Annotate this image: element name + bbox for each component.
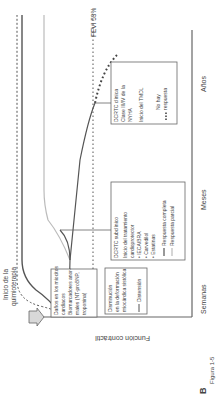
svg-text:Daños en los miocitos: Daños en los miocitos — [53, 266, 59, 315]
svg-text:males (NT-proBNP,: males (NT-proBNP, — [74, 272, 80, 315]
partial-response-line — [44, 15, 70, 260]
svg-text:troponina): troponina) — [81, 292, 87, 315]
fevi-threshold-label: FEVI 53% — [90, 8, 97, 37]
x-label-semanas: Semanas — [200, 284, 207, 314]
bullet-estatinas: • Estatinas — [150, 234, 156, 258]
box-clinical: DCRTC clínica Clase III/IV de la NYHA In… — [95, 62, 177, 124]
panel-letter: B — [198, 387, 208, 394]
chemo-start-arrow — [29, 308, 44, 326]
bullet-ieca: • IECA/BRA — [136, 231, 142, 258]
svg-text:respuesta: respuesta — [162, 88, 168, 110]
svg-text:Respuesta completa: Respuesta completa — [161, 200, 167, 246]
svg-text:Respuesta parcial: Respuesta parcial — [169, 206, 175, 246]
bullet-carvedilol: • Carvedilol — [143, 233, 149, 258]
svg-text:cardíacos: cardíacos — [60, 293, 66, 315]
svg-text:en la deformación: en la deformación — [114, 272, 120, 312]
y-axis-label: Función contráctil — [95, 335, 150, 342]
x-label-meses: Meses — [200, 189, 207, 210]
box-subclinical: DCRTC subclínico Inicio del tratamiento … — [60, 182, 185, 260]
svg-text:cardioprotector: cardioprotector — [129, 224, 135, 258]
svg-text:DCRTC subclínico: DCRTC subclínico — [113, 217, 119, 258]
box-strain-decrease: Disminución en la deformación miocárdica… — [105, 268, 147, 314]
svg-text:Distensión: Distensión — [136, 278, 142, 302]
decline-to-clinical-line — [70, 103, 95, 260]
svg-text:Clase III/IV de la: Clase III/IV de la — [120, 85, 126, 122]
chemo-label-line2: quimioterapia — [10, 267, 18, 306]
cardiotoxicity-diagram: Función contráctil B Semanas Meses Años … — [0, 0, 218, 410]
svg-text:NYHA: NYHA — [127, 107, 133, 122]
svg-text:Inicio del TMDL: Inicio del TMDL — [138, 87, 144, 122]
svg-text:No hay: No hay — [155, 94, 161, 110]
svg-text:Inicio del tratamiento: Inicio del tratamiento — [122, 212, 128, 258]
svg-text:Biomarcadores anor-: Biomarcadores anor- — [67, 268, 73, 315]
svg-text:DCRTC clínica: DCRTC clínica — [113, 89, 119, 122]
x-label-anos: Años — [200, 76, 207, 92]
box-myocyte-damage: Daños en los miocitos cardíacos Biomarca… — [51, 266, 97, 317]
figure-stage: Función contráctil B Semanas Meses Años … — [0, 0, 218, 410]
chemo-label-line1: Inicio de la — [2, 269, 9, 300]
caption-fragment: Figura 1-5 — [209, 356, 215, 384]
svg-text:miocárdica sistólica: miocárdica sistólica — [121, 268, 127, 312]
svg-text:Disminución: Disminución — [107, 285, 113, 312]
